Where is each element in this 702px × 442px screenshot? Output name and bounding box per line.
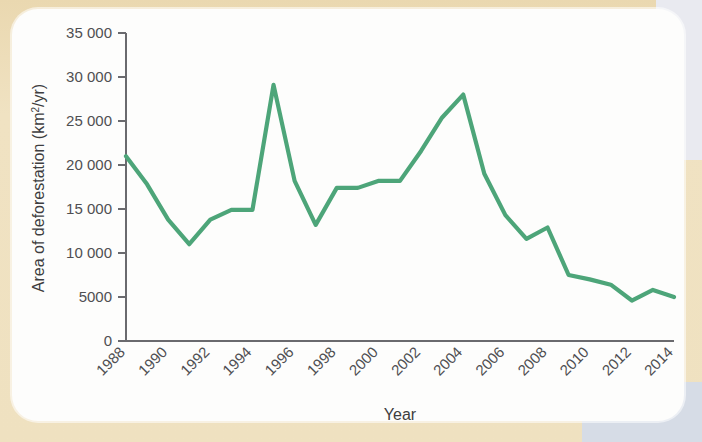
y-tick-label: 35 000 <box>66 24 112 41</box>
x-tick-label: 1996 <box>261 343 297 379</box>
y-tick-label: 25 000 <box>66 112 112 129</box>
x-tick-label: 1998 <box>303 343 339 379</box>
y-tick-label: 10 000 <box>66 244 112 261</box>
y-tick-label: 20 000 <box>66 156 112 173</box>
x-axis-tick-labels: 1988199019921994199619982000200220042006… <box>93 343 677 379</box>
x-tick-label: 2010 <box>556 343 592 379</box>
y-tick-label: 15 000 <box>66 200 112 217</box>
x-tick-label: 1994 <box>219 343 255 379</box>
x-tick-label: 2012 <box>598 343 634 379</box>
x-tick-label: 2006 <box>472 343 508 379</box>
y-tick-label: 5000 <box>79 288 112 305</box>
x-tick-label: 1988 <box>93 343 129 379</box>
chart-svg: 0500010 00015 00020 00025 00030 00035 00… <box>0 0 702 442</box>
y-axis-ticks <box>118 33 126 341</box>
x-tick-label: 2004 <box>430 343 466 379</box>
x-tick-label: 2002 <box>388 343 424 379</box>
x-tick-label: 1992 <box>177 343 213 379</box>
x-axis-label: Year <box>384 406 417 423</box>
y-tick-label: 0 <box>104 332 112 349</box>
y-axis-tick-labels: 0500010 00015 00020 00025 00030 00035 00… <box>66 24 112 349</box>
x-tick-label: 1990 <box>135 343 171 379</box>
y-axis-label: Area of deforestation (km2/yr) <box>30 84 47 292</box>
y-tick-label: 30 000 <box>66 68 112 85</box>
deforestation-line-series <box>126 85 674 301</box>
x-tick-label: 2014 <box>641 343 677 379</box>
axes <box>126 33 674 341</box>
x-tick-label: 2000 <box>345 343 381 379</box>
x-tick-label: 2008 <box>514 343 550 379</box>
line-chart: 0500010 00015 00020 00025 00030 00035 00… <box>0 0 702 442</box>
figure-page: 0500010 00015 00020 00025 00030 00035 00… <box>0 0 702 442</box>
